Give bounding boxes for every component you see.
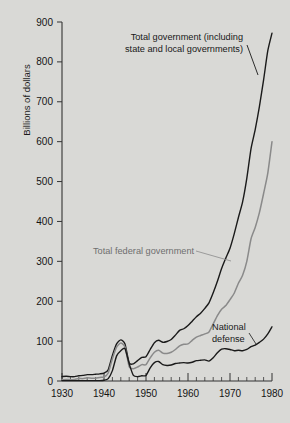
y-tick-label: 0 — [47, 376, 53, 387]
total-government-label: Total government (including state and lo… — [125, 32, 243, 54]
x-tick-label: 1940 — [93, 388, 116, 399]
y-tick-label: 100 — [36, 336, 53, 347]
total-federal-leader-line — [196, 251, 231, 261]
x-tick-label: 1930 — [51, 388, 74, 399]
y-tick-label: 900 — [36, 17, 53, 28]
x-tick-group: 193019401950196019701980 — [51, 373, 284, 399]
y-tick-label: 600 — [36, 136, 53, 147]
svg-text:Total government (including: Total government (including — [131, 32, 243, 42]
svg-text:defense: defense — [212, 334, 245, 344]
y-axis-label: Billions of dollars — [21, 64, 32, 136]
national-defense-leader-line — [249, 333, 256, 344]
svg-text:Total federal government: Total federal government — [93, 246, 195, 256]
y-tick-group: 0100200300400500600700800900 — [36, 17, 62, 387]
y-tick-label: 200 — [36, 296, 53, 307]
x-tick-label: 1950 — [135, 388, 158, 399]
svg-text:state and local governments): state and local governments) — [125, 44, 243, 54]
y-tick-label: 400 — [36, 216, 53, 227]
chart-figure: Billions of dollars 01002003004005006007… — [0, 0, 290, 423]
total-federal-government-label: Total federal government — [93, 246, 195, 256]
x-tick-label: 1960 — [177, 388, 200, 399]
series-line-1 — [62, 142, 272, 380]
y-tick-label: 700 — [36, 96, 53, 107]
total-government-leader-line — [247, 45, 258, 75]
y-tick-label: 800 — [36, 56, 53, 67]
y-tick-label: 300 — [36, 256, 53, 267]
national-defense-label: National defense — [212, 322, 246, 344]
x-tick-label: 1970 — [219, 388, 242, 399]
y-tick-label: 500 — [36, 176, 53, 187]
chart-plot-area: Billions of dollars 01002003004005006007… — [0, 0, 290, 423]
x-tick-label: 1980 — [261, 388, 284, 399]
svg-text:National: National — [212, 322, 246, 332]
